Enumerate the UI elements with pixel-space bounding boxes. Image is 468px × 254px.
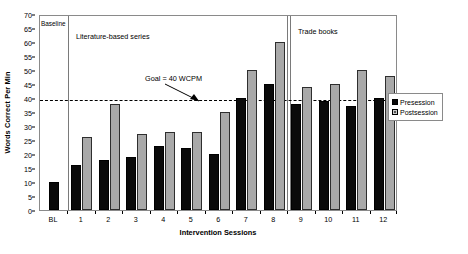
x-tick-label: 10 [324, 215, 332, 224]
y-tick-label: 40 [24, 95, 32, 104]
bar-presession [49, 182, 59, 210]
bar-postsession [357, 70, 367, 210]
y-tick-mark [32, 71, 35, 72]
x-tick-label: 11 [352, 215, 359, 224]
x-tick-mark [177, 211, 178, 214]
x-tick-label: 8 [271, 215, 275, 224]
legend-label-presession: Presession [400, 98, 435, 107]
x-tick-mark [67, 211, 68, 214]
y-tick-label: 60 [24, 39, 32, 48]
legend-swatch-presession [392, 99, 398, 105]
bar-presession [346, 106, 356, 210]
x-tick-mark [122, 211, 123, 214]
y-axis-title: Words Correct Per Min [0, 0, 14, 225]
y-tick-label: 50 [24, 67, 32, 76]
x-tick-mark [260, 211, 261, 214]
y-tick-label: 15 [24, 165, 32, 174]
chart-legend: Presession Postsession [388, 93, 443, 121]
goal-reference-line [40, 100, 396, 101]
y-tick-label: 20 [24, 151, 32, 160]
y-tick-mark [32, 57, 35, 58]
y-tick-label: 65 [24, 25, 32, 34]
y-tick-label: 70 [24, 11, 32, 20]
x-tick-mark [287, 211, 288, 214]
x-tick-label: 7 [244, 215, 248, 224]
x-tick-label: 1 [79, 215, 83, 224]
x-tick-mark [315, 211, 316, 214]
x-tick-mark [205, 211, 206, 214]
y-tick-label: 55 [24, 53, 32, 62]
bar-presession [319, 101, 329, 210]
y-tick-mark [32, 197, 35, 198]
x-tick-label: 3 [134, 215, 138, 224]
y-tick-label: 35 [24, 109, 32, 118]
y-tick-mark [32, 127, 35, 128]
x-tick-label: 5 [189, 215, 193, 224]
legend-item-presession: Presession [392, 97, 438, 107]
bar-postsession [220, 112, 230, 210]
bar-postsession [165, 132, 175, 210]
x-tick-mark [342, 211, 343, 214]
bar-postsession [247, 70, 257, 210]
bar-presession [291, 104, 301, 210]
y-tick-mark [32, 141, 35, 142]
bar-presession [181, 148, 191, 210]
x-tick-label: 6 [216, 215, 220, 224]
y-tick-mark [32, 43, 35, 44]
legend-label-postsession: Postsession [400, 108, 438, 117]
bar-postsession [192, 132, 202, 210]
y-axis-title-text: Words Correct Per Min [3, 71, 12, 153]
x-tick-label: BL [49, 215, 58, 224]
phase-divider-trade-a [287, 16, 288, 210]
x-tick-label: 9 [299, 215, 303, 224]
bar-presession [99, 160, 109, 210]
bar-postsession [137, 134, 147, 210]
y-tick-label: 45 [24, 81, 32, 90]
bar-presession [374, 98, 384, 210]
y-tick-label: 30 [24, 123, 32, 132]
phase-label-literature: Literature-based series [76, 32, 150, 41]
bar-presession [209, 154, 219, 210]
legend-item-postsession: Postsession [392, 107, 438, 117]
x-tick-label: 12 [379, 215, 387, 224]
y-tick-mark [32, 211, 35, 212]
y-tick-mark [32, 15, 35, 16]
bar-postsession [82, 137, 92, 210]
bar-postsession [302, 87, 312, 210]
bar-postsession [275, 42, 285, 210]
chart-container: Words Correct Per Min 051015202530354045… [0, 0, 468, 254]
y-tick-mark [32, 169, 35, 170]
x-tick-mark [150, 211, 151, 214]
bar-presession [126, 157, 136, 210]
y-tick-mark [32, 99, 35, 100]
plot-area: Baseline Literature-based series Trade b… [39, 15, 397, 211]
legend-swatch-postsession [392, 109, 398, 115]
bar-presession [264, 84, 274, 210]
bar-postsession [330, 84, 340, 210]
y-tick-mark [32, 29, 35, 30]
y-tick-mark [32, 183, 35, 184]
baseline-phase-label: Baseline [41, 20, 66, 27]
y-tick-mark [32, 85, 35, 86]
x-tick-label: 2 [106, 215, 110, 224]
goal-arrow-icon [163, 82, 209, 108]
plot-inner: Baseline Literature-based series Trade b… [40, 16, 396, 210]
phase-divider-baseline [68, 16, 69, 210]
phase-label-trade: Trade books [298, 27, 338, 36]
bar-presession [154, 146, 164, 210]
x-tick-mark [370, 211, 371, 214]
bar-presession [236, 98, 246, 210]
x-tick-mark [396, 211, 397, 214]
x-tick-mark [95, 211, 96, 214]
y-tick-label: 10 [24, 179, 32, 188]
bar-presession [71, 165, 81, 210]
bar-postsession [110, 104, 120, 210]
y-axis-ticks: 0510152025303540455055606570 [14, 0, 36, 225]
x-tick-mark [232, 211, 233, 214]
y-tick-mark [32, 155, 35, 156]
y-tick-mark [32, 113, 35, 114]
x-axis-title: Intervention Sessions [39, 228, 397, 237]
x-axis-ticks: BL123456789101112 [39, 211, 397, 227]
y-tick-label: 25 [24, 137, 32, 146]
x-tick-label: 4 [161, 215, 165, 224]
